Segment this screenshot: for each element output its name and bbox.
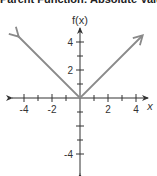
x-tick-label: 4 [133,104,139,115]
absolute-value-graph: -4 -2 2 4 4 2 -4 f(x) x [0,0,157,176]
y-tick-label: -4 [64,149,73,160]
y-axis-label: f(x) [72,14,88,26]
x-tick-label: -2 [48,104,57,115]
y-tick-label: 2 [67,65,73,76]
x-tick-label: 2 [105,104,111,115]
x-tick-label: -4 [20,104,29,115]
y-tick-label: 4 [67,37,73,48]
x-axis-label: x [146,100,153,112]
